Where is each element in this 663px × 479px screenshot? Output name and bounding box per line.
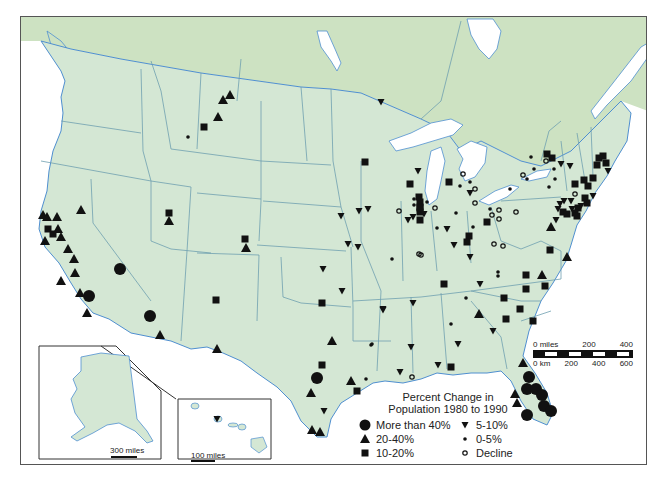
city-marker-small-dot	[390, 257, 394, 261]
city-marker-small-dot	[370, 342, 374, 346]
city-marker-large-circle	[311, 372, 323, 384]
city-marker-small-dot	[435, 226, 439, 230]
city-marker-small-dot	[553, 177, 557, 181]
city-marker-square	[600, 153, 607, 160]
city-marker-square	[547, 247, 554, 254]
scale-km-200: 200	[565, 359, 578, 368]
city-marker-square	[484, 219, 491, 226]
scale-km-row: 0 km 200 400 600	[533, 359, 633, 368]
legend-item-small-dot: 0-5%	[458, 433, 538, 445]
scale-miles-0: 0 miles	[533, 340, 558, 349]
legend-title-line2: Population 1980 to 1990	[358, 403, 538, 415]
city-marker-small-dot	[412, 203, 416, 207]
city-marker-square	[564, 211, 571, 218]
city-marker-small-dot	[364, 377, 368, 381]
city-marker-square	[201, 124, 208, 131]
city-marker-square	[549, 155, 556, 162]
city-marker-square	[466, 233, 473, 240]
legend: Percent Change in Population 1980 to 199…	[358, 391, 538, 459]
city-marker-square	[417, 217, 424, 224]
city-marker-square	[603, 160, 610, 167]
legend-label: More than 40%	[376, 419, 451, 431]
alaska-scale-label: 300 miles	[110, 446, 144, 455]
city-marker-square	[417, 205, 424, 212]
city-marker-square	[441, 281, 448, 288]
legend-label: 0-5%	[476, 433, 502, 445]
city-marker-small-dot	[496, 270, 500, 274]
city-marker-square	[585, 183, 592, 190]
square-icon	[358, 447, 372, 459]
legend-title-line1: Percent Change in	[358, 391, 538, 403]
city-marker-small-dot	[464, 296, 468, 300]
city-marker-small-dot	[425, 200, 429, 204]
city-marker-square	[523, 272, 530, 279]
scale-bar: 0 miles 200 400 0 km 200 400 600	[533, 340, 633, 368]
city-marker-square	[319, 300, 326, 307]
scale-miles-row: 0 miles 200 400	[533, 340, 633, 349]
legend-item-up-triangle: 20-40%	[358, 433, 458, 445]
city-marker-small-dot	[552, 167, 556, 171]
city-marker-square	[530, 318, 537, 325]
city-marker-small-dot	[471, 225, 475, 229]
city-marker-small-dot	[488, 207, 492, 211]
city-marker-small-dot	[449, 322, 453, 326]
legend-item-large-circle: More than 40%	[358, 419, 458, 431]
city-marker-square	[594, 162, 601, 169]
alaska-inset	[39, 346, 176, 459]
city-marker-large-circle	[523, 371, 535, 383]
city-marker-small-dot	[458, 184, 462, 188]
city-marker-small-dot	[525, 177, 529, 181]
scale-km-0: 0 km	[533, 359, 550, 368]
city-marker-square	[242, 236, 249, 243]
large-circle-icon	[358, 419, 372, 431]
city-marker-small-dot	[529, 155, 533, 159]
hawaii-inset	[178, 399, 271, 459]
city-marker-square	[416, 194, 423, 201]
city-marker-square	[574, 213, 581, 220]
city-marker-square	[517, 306, 524, 313]
city-marker-small-dot	[454, 211, 458, 215]
city-marker-square	[581, 177, 588, 184]
city-marker-square	[584, 200, 591, 207]
city-marker-square	[319, 362, 326, 369]
city-marker-square	[213, 297, 220, 304]
scale-miles-400: 400	[620, 340, 633, 349]
legend-label: 10-20%	[376, 447, 414, 459]
city-marker-large-circle	[144, 310, 156, 322]
legend-item-square: 10-20%	[358, 447, 458, 459]
city-marker-small-dot	[547, 185, 551, 189]
map-frame: 300 miles 100 miles	[20, 16, 647, 465]
map-canvas	[21, 17, 647, 465]
city-marker-square	[446, 179, 453, 186]
scale-km-400: 400	[592, 359, 605, 368]
city-marker-small-dot	[468, 180, 472, 184]
open-circle-icon	[458, 447, 472, 459]
alaska-scale-bar	[111, 456, 137, 458]
hawaii-scale-bar	[191, 460, 215, 462]
down-triangle-icon	[458, 419, 472, 431]
legend-item-down-triangle: 5-10%	[458, 419, 538, 431]
city-marker-up-triangle	[56, 276, 66, 285]
city-marker-square	[501, 295, 508, 302]
legend-label: Decline	[476, 447, 513, 459]
small-dot-icon	[458, 433, 472, 445]
legend-items: More than 40%5-10%20-40%0-5%10-20%Declin…	[358, 419, 538, 459]
city-marker-small-dot	[186, 135, 190, 139]
legend-title: Percent Change in Population 1980 to 199…	[358, 391, 538, 415]
scale-miles-200: 200	[582, 340, 595, 349]
city-marker-large-circle	[545, 405, 557, 417]
city-marker-small-dot	[412, 197, 416, 201]
legend-label: 20-40%	[376, 433, 414, 445]
city-marker-square	[523, 286, 530, 293]
hawaii-scale-label: 100 miles	[191, 451, 225, 460]
legend-label: 5-10%	[476, 419, 508, 431]
city-marker-square	[542, 283, 549, 290]
city-marker-square	[503, 316, 510, 323]
up-triangle-icon	[358, 433, 372, 445]
city-marker-small-dot	[508, 187, 512, 191]
city-marker-square	[362, 159, 369, 166]
legend-item-open-circle: Decline	[458, 447, 538, 459]
scale-km-600: 600	[620, 359, 633, 368]
scale-bar-graphic	[533, 350, 633, 358]
city-marker-large-circle	[114, 263, 126, 275]
